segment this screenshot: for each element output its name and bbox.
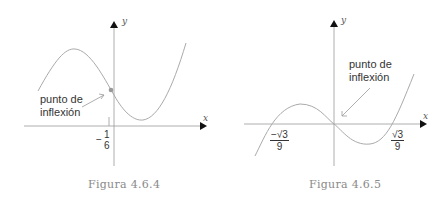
figure-2-caption: Figura 4.6.5 [309, 178, 381, 191]
figure-1-tick-fraction: 1 6 [103, 129, 111, 151]
figure-1-y-label: y [122, 16, 127, 26]
figure-2-pointer [342, 88, 370, 116]
inflection-point-dot [109, 88, 114, 93]
figure-1-annotation: punto de inflexión [40, 93, 83, 119]
figure-2-y-label: y [341, 15, 346, 25]
figure-1-pointer [82, 95, 104, 107]
figure-2-x-label: x [423, 111, 428, 121]
figure-2-tick-right: √3 9 [391, 129, 404, 152]
figure-2-tick-left: −√3 9 [270, 129, 289, 152]
figure-1-tick-sign: − [96, 134, 102, 145]
figure-1-caption: Figura 4.6.4 [88, 178, 160, 191]
figure-1-x-label: x [203, 113, 208, 123]
figure-2-annotation: punto de inflexión [349, 58, 392, 84]
